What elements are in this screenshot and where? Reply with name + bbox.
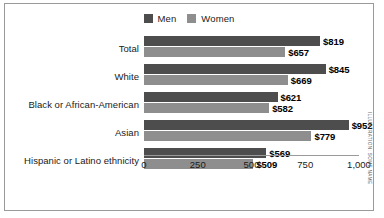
bar-men[interactable] — [144, 148, 266, 158]
chart-legend: Men Women — [5, 13, 373, 24]
category-label: Black or African-American — [5, 99, 139, 110]
bar-value-label: $779 — [314, 131, 335, 142]
chart-row: Total$819$657 — [5, 34, 373, 62]
chart-row: White$845$669 — [5, 62, 373, 90]
bar-group: $952$779 — [144, 118, 373, 146]
legend-entry-women: Women — [187, 13, 234, 24]
bar-value-label: $569 — [269, 148, 290, 159]
legend-label-women: Women — [201, 13, 234, 24]
x-axis-tick: 500 — [244, 159, 260, 170]
bar-line-men: $819 — [144, 36, 344, 46]
bar-men[interactable] — [144, 64, 326, 74]
bar-value-label: $621 — [281, 92, 302, 103]
category-label: Total — [5, 43, 139, 54]
x-axis-tick: 250 — [190, 159, 206, 170]
bar-line-women: $779 — [144, 131, 335, 141]
legend-swatch-women — [187, 14, 196, 23]
x-axis-tick: 750 — [297, 159, 313, 170]
bar-value-label: $845 — [329, 64, 350, 75]
bar-value-label: $582 — [272, 103, 293, 114]
chart-row: Asian$952$779 — [5, 118, 373, 146]
chart-figure: Men Women Total$819$657White$845$669Blac… — [4, 3, 374, 211]
bar-value-label: $669 — [291, 75, 312, 86]
category-label: Hispanic or Latino ethnicity — [5, 155, 139, 166]
bar-line-women: $669 — [144, 75, 312, 85]
bar-group: $845$669 — [144, 62, 373, 90]
category-label: White — [5, 71, 139, 82]
illustration-credit: ILLUSTRATION: SOME NAME — [367, 112, 372, 184]
bar-group: $621$582 — [144, 90, 373, 118]
x-axis-line — [144, 155, 359, 156]
bar-line-women: $582 — [144, 103, 293, 113]
category-label: Asian — [5, 127, 139, 138]
bar-value-label: $819 — [323, 36, 344, 47]
bar-line-women: $657 — [144, 47, 309, 57]
bar-men[interactable] — [144, 92, 278, 102]
bar-value-label: $657 — [288, 47, 309, 58]
bar-women[interactable] — [144, 47, 285, 57]
bar-group: $819$657 — [144, 34, 373, 62]
plot-area: Total$819$657White$845$669Black or Afric… — [5, 30, 373, 212]
bar-women[interactable] — [144, 103, 269, 113]
x-axis-tick: 0 — [141, 159, 146, 170]
bar-men[interactable] — [144, 36, 320, 46]
x-axis-tick-labels: 02505007501,000 — [144, 159, 359, 173]
bar-line-men: $952 — [144, 120, 372, 130]
legend-label-men: Men — [158, 13, 177, 24]
bar-line-men: $621 — [144, 92, 301, 102]
legend-swatch-men — [144, 14, 153, 23]
bar-line-men: $845 — [144, 64, 349, 74]
bar-men[interactable] — [144, 120, 349, 130]
legend-entry-men: Men — [144, 13, 177, 24]
bar-women[interactable] — [144, 75, 288, 85]
chart-row: Black or African-American$621$582 — [5, 90, 373, 118]
bar-line-men: $569 — [144, 148, 290, 158]
bar-women[interactable] — [144, 131, 311, 141]
